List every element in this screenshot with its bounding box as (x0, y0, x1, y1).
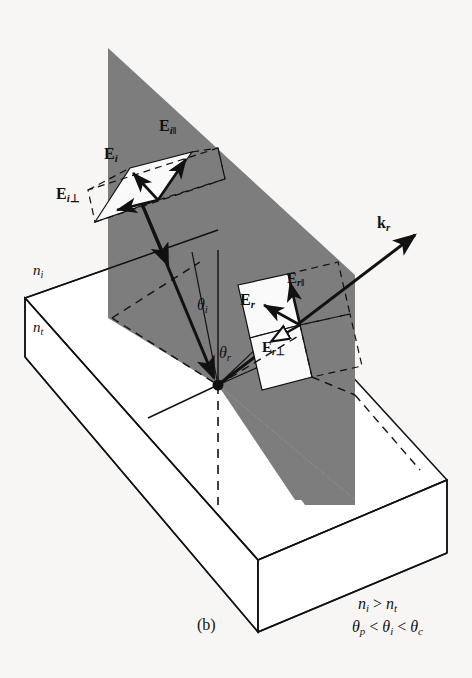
label-theta-i: θi (197, 297, 208, 313)
reflection-diagram-svg (0, 0, 472, 678)
label-E-r-parallel: Er‖ (287, 271, 304, 286)
label-theta-r: θr (219, 345, 231, 361)
label-E-r-perp: Er⊥ (262, 340, 285, 355)
incidence-point (213, 380, 224, 391)
label-E-i: Ei (104, 146, 118, 162)
condition-index-inequality: ni > nt (358, 596, 397, 612)
label-E-i-perp: Ei⊥ (56, 186, 80, 202)
figure-caption: (b) (197, 617, 216, 633)
label-E-i-parallel: Ei‖ (159, 118, 176, 134)
label-n-t: nt (33, 320, 43, 335)
condition-angle-inequality: θp < θi < θc (352, 619, 423, 635)
label-k-r: kr (377, 215, 390, 231)
label-n-i: ni (33, 263, 43, 278)
figure-container: Ei Ei‖ Ei⊥ Er Er‖ Er⊥ kr θi θr ni nt ni … (0, 0, 472, 678)
label-E-r: Er (240, 292, 255, 308)
